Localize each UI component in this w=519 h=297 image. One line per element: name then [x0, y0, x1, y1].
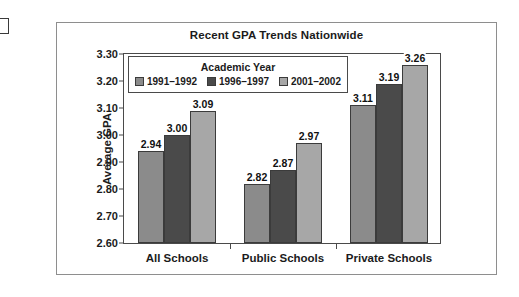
chart-title: Recent GPA Trends Nationwide: [57, 29, 496, 41]
legend-item[interactable]: 2001–2002: [279, 76, 341, 87]
cropped-edge-mark: [0, 18, 9, 34]
plot-area: 3.303.203.103.002.902.802.702.60 2.943.0…: [123, 53, 441, 244]
legend-label: 2001–2002: [291, 76, 341, 87]
bar-value-label: 3.11: [352, 92, 374, 104]
y-tick-label: 3.20: [97, 75, 118, 87]
y-tick-label: 2.60: [97, 237, 118, 249]
y-tick-label: 3.00: [97, 129, 118, 141]
y-tick-label: 3.30: [97, 48, 118, 60]
legend-swatch-icon: [135, 77, 144, 86]
legend-swatch-icon: [279, 77, 288, 86]
legend-title: Academic Year: [135, 61, 341, 73]
legend-swatch-icon: [207, 77, 216, 86]
legend-label: 1991–1992: [147, 76, 197, 87]
x-category-label: Private Schools: [346, 252, 432, 264]
bar[interactable]: 2.82: [244, 184, 270, 243]
y-tick-label: 2.90: [97, 156, 118, 168]
legend-item[interactable]: 1991–1992: [135, 76, 197, 87]
bar-value-label: 2.82: [246, 171, 268, 183]
legend-label: 1996–1997: [219, 76, 269, 87]
bar-group: 3.113.193.26: [336, 54, 442, 243]
bar-value-label: 3.09: [192, 98, 214, 110]
bar[interactable]: 3.19: [376, 84, 402, 243]
legend-items: 1991–19921996–19972001–2002: [135, 76, 341, 87]
bar[interactable]: 2.87: [270, 170, 296, 243]
x-category-label: Public Schools: [242, 252, 324, 264]
legend: Academic Year 1991–19921996–19972001–200…: [128, 56, 348, 93]
bar-value-label: 3.00: [166, 122, 188, 134]
bar[interactable]: 3.00: [164, 135, 190, 243]
legend-item[interactable]: 1996–1997: [207, 76, 269, 87]
bar-value-label: 3.19: [378, 71, 400, 83]
bar[interactable]: 2.97: [296, 143, 322, 243]
y-tick-label: 2.80: [97, 183, 118, 195]
y-tick-label: 3.10: [97, 102, 118, 114]
bar-value-label: 2.87: [272, 157, 294, 169]
figure-frame: Recent GPA Trends Nationwide Average GPA…: [56, 22, 497, 275]
bar[interactable]: 2.94: [138, 151, 164, 243]
bar-value-label: 2.97: [298, 130, 320, 142]
x-category-label: All Schools: [146, 252, 209, 264]
bar[interactable]: 3.09: [190, 111, 216, 243]
bar-value-label: 3.26: [404, 52, 426, 64]
bar-value-label: 2.94: [140, 138, 162, 150]
bar[interactable]: 3.11: [350, 105, 376, 243]
bar[interactable]: 3.26: [402, 65, 428, 243]
y-axis-title: Average GPA: [101, 112, 113, 184]
x-tick-mark: [230, 243, 231, 249]
x-tick-mark: [336, 243, 337, 249]
y-tick-label: 2.70: [97, 210, 118, 222]
